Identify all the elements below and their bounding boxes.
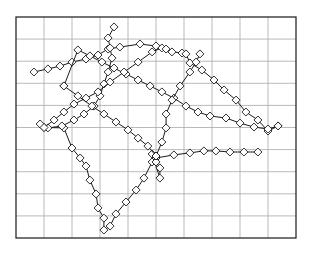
diamond-marker-icon: [104, 34, 112, 42]
diamond-marker-icon: [170, 151, 178, 159]
diamond-marker-icon: [200, 147, 208, 155]
diamond-marker-icon: [86, 176, 94, 184]
diamond-marker-icon: [236, 119, 244, 127]
diamond-marker-icon: [74, 92, 82, 100]
diamond-marker-icon: [82, 94, 90, 102]
diamond-marker-icon: [110, 23, 118, 31]
diamond-marker-icon: [212, 147, 220, 155]
diamond-marker-icon: [162, 110, 170, 118]
line-chart: [0, 0, 312, 259]
diamond-marker-icon: [56, 62, 64, 70]
diamond-marker-icon: [70, 116, 78, 124]
diamond-marker-icon: [100, 110, 108, 118]
diamond-marker-icon: [162, 124, 170, 132]
diamond-marker-icon: [158, 138, 166, 146]
diamond-marker-icon: [112, 118, 120, 126]
diamond-marker-icon: [194, 108, 202, 116]
series-trajectory-2: [60, 46, 282, 133]
plot-area: [0, 0, 312, 259]
diamond-marker-icon: [94, 51, 102, 59]
series-trajectory-4: [152, 147, 262, 162]
diamond-marker-icon: [250, 123, 258, 131]
diamond-marker-icon: [140, 174, 148, 182]
diamond-marker-icon: [196, 50, 204, 58]
diamond-marker-icon: [136, 40, 144, 48]
diamond-marker-icon: [186, 149, 194, 157]
diamond-marker-icon: [158, 88, 166, 96]
diamond-marker-icon: [182, 102, 190, 110]
diamond-marker-icon: [116, 43, 124, 51]
diamond-marker-icon: [156, 174, 164, 182]
diamond-marker-icon: [274, 122, 282, 130]
diamond-marker-icon: [30, 68, 38, 76]
diamond-marker-icon: [134, 58, 142, 66]
diamond-marker-icon: [82, 162, 90, 170]
diamond-marker-icon: [74, 46, 82, 54]
diamond-marker-icon: [134, 76, 142, 84]
diamond-marker-icon: [98, 58, 106, 66]
diamond-marker-icon: [100, 214, 108, 222]
series-trajectory-9: [152, 50, 204, 160]
diamond-marker-icon: [186, 68, 194, 76]
diamond-marker-icon: [222, 114, 230, 122]
diamond-marker-icon: [206, 112, 214, 120]
diamond-marker-icon: [94, 204, 102, 212]
diamond-marker-icon: [44, 65, 52, 73]
diamond-marker-icon: [92, 190, 100, 198]
